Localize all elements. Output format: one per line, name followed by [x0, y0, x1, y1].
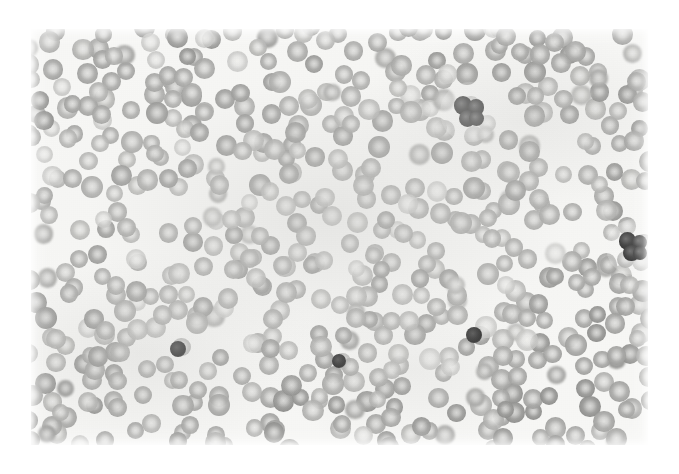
- red-blood-cell: [315, 251, 334, 270]
- red-blood-cell: [35, 307, 57, 329]
- red-blood-cell: [389, 79, 407, 97]
- red-blood-cell: [259, 355, 279, 375]
- red-blood-cell: [499, 130, 518, 149]
- red-blood-cell: [168, 263, 190, 285]
- red-blood-cell: [493, 346, 513, 366]
- red-blood-cell: [233, 142, 252, 161]
- red-blood-cell: [63, 169, 82, 188]
- red-blood-cell: [299, 364, 317, 382]
- red-blood-cell: [31, 91, 49, 110]
- red-blood-cell: [636, 346, 648, 366]
- red-blood-cell: [108, 372, 127, 391]
- red-blood-cell: [108, 398, 127, 417]
- red-blood-cell: [476, 363, 493, 380]
- red-blood-cell: [64, 95, 81, 112]
- red-blood-cell: [159, 285, 178, 304]
- red-blood-cell: [536, 312, 553, 329]
- red-blood-cell: [379, 437, 399, 445]
- red-blood-cell: [39, 31, 61, 53]
- red-blood-cell: [609, 102, 627, 120]
- red-blood-cell: [264, 139, 285, 160]
- red-blood-cell: [565, 41, 586, 62]
- red-blood-cell: [568, 274, 585, 291]
- red-blood-cell: [639, 367, 648, 387]
- red-blood-cell: [554, 90, 572, 108]
- red-blood-cell: [315, 188, 334, 207]
- red-blood-cell: [43, 59, 64, 80]
- red-blood-cell: [126, 281, 147, 302]
- red-blood-cell: [114, 300, 136, 322]
- red-blood-cell: [620, 276, 638, 294]
- red-blood-cell: [137, 169, 158, 190]
- red-blood-cell: [565, 334, 587, 356]
- red-blood-cell: [186, 312, 208, 334]
- red-blood-cell: [251, 227, 269, 245]
- red-blood-cell: [289, 142, 306, 159]
- red-blood-cell: [146, 145, 164, 163]
- red-blood-cell: [381, 408, 400, 427]
- red-blood-cell: [225, 226, 243, 244]
- red-blood-cell: [174, 139, 191, 156]
- red-blood-cell: [311, 289, 332, 310]
- red-blood-cell: [269, 71, 291, 93]
- red-blood-cell: [79, 152, 97, 170]
- red-blood-cell: [71, 435, 90, 445]
- red-blood-cell: [322, 206, 342, 226]
- leukocyte-right-edge-nuclear-lobe-4: [633, 246, 647, 260]
- red-blood-cell: [596, 200, 617, 221]
- red-blood-cell: [34, 224, 54, 244]
- red-blood-cell: [305, 147, 324, 166]
- red-blood-cell: [453, 43, 474, 64]
- red-blood-cell: [159, 223, 178, 242]
- red-blood-cell: [543, 345, 562, 364]
- platelet-lower-left: [170, 341, 186, 357]
- red-blood-cell: [435, 29, 452, 40]
- red-blood-cell: [142, 414, 160, 432]
- red-blood-cell: [31, 128, 41, 146]
- red-blood-cell: [368, 136, 390, 158]
- red-blood-cell: [461, 151, 482, 172]
- red-blood-cell: [358, 99, 380, 121]
- red-blood-cell: [240, 249, 259, 268]
- red-blood-cell: [110, 343, 130, 363]
- red-blood-cell: [352, 71, 370, 89]
- red-blood-cell: [78, 392, 98, 412]
- red-blood-cell: [464, 29, 486, 41]
- red-blood-cell: [508, 87, 526, 105]
- red-blood-cell: [560, 105, 579, 124]
- red-blood-cell: [294, 29, 313, 43]
- red-blood-cell: [302, 400, 323, 421]
- red-blood-cell: [639, 151, 648, 172]
- red-blood-cell: [633, 92, 648, 112]
- red-blood-cell: [231, 84, 249, 102]
- red-blood-cell: [427, 298, 445, 316]
- platelet-lower-mid: [332, 354, 346, 368]
- red-blood-cell: [589, 69, 607, 87]
- red-blood-cell: [341, 234, 359, 252]
- red-blood-cell: [358, 343, 377, 362]
- red-blood-cell: [178, 286, 195, 303]
- red-blood-cell: [563, 203, 581, 221]
- red-blood-cell: [164, 90, 182, 108]
- red-blood-cell: [70, 250, 88, 268]
- red-blood-cell: [529, 294, 548, 313]
- red-blood-cell: [242, 382, 262, 402]
- red-blood-cell: [92, 105, 111, 124]
- red-blood-cell: [81, 176, 103, 198]
- red-blood-cell: [223, 29, 241, 41]
- red-blood-cell: [263, 309, 283, 329]
- red-blood-cell: [212, 349, 229, 366]
- red-blood-cell: [70, 220, 90, 240]
- red-blood-cell: [264, 422, 285, 443]
- red-blood-cell: [77, 63, 98, 84]
- red-blood-cell: [305, 55, 323, 73]
- red-blood-cell: [505, 180, 526, 201]
- red-blood-cell: [72, 39, 93, 60]
- red-blood-cell: [391, 55, 411, 75]
- red-blood-cell: [36, 146, 53, 163]
- red-blood-cell: [428, 388, 448, 408]
- red-blood-cell: [508, 367, 527, 386]
- red-blood-cell: [575, 357, 593, 375]
- red-blood-cell: [174, 68, 193, 87]
- red-blood-cell: [373, 261, 390, 278]
